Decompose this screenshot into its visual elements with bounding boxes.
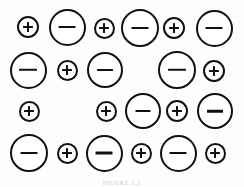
glyph-vertical-bar <box>213 66 215 76</box>
positive-ion-circle <box>57 60 78 81</box>
plus-icon <box>133 145 150 162</box>
positive-ion-circle <box>166 100 188 122</box>
plus-icon <box>21 103 38 120</box>
plus-icon <box>165 19 183 37</box>
minus-icon <box>51 11 84 44</box>
glyph-horizontal-bar <box>19 69 37 71</box>
glyph-vertical-bar <box>176 106 178 116</box>
glyph-horizontal-bar <box>132 27 149 29</box>
minus-icon <box>162 137 195 170</box>
plus-icon <box>168 102 186 120</box>
negative-ion-circle <box>49 9 86 46</box>
minus-icon <box>123 11 157 45</box>
glyph-vertical-bar <box>28 106 30 116</box>
positive-ion-circle <box>96 101 117 122</box>
minus-icon <box>88 137 121 170</box>
minus-icon <box>199 95 231 127</box>
negative-ion-circle <box>197 93 233 129</box>
negative-ion-circle <box>160 135 197 172</box>
glyph-vertical-bar <box>173 23 175 33</box>
negative-ion-circle <box>125 93 161 129</box>
glyph-vertical-bar <box>214 148 216 158</box>
plus-icon <box>98 103 115 120</box>
negative-ion-circle <box>10 52 47 89</box>
positive-ion-circle <box>94 18 115 39</box>
glyph-vertical-bar <box>27 22 29 32</box>
plus-icon <box>19 18 37 36</box>
figure-caption: FIGURE 1.1 <box>0 180 244 186</box>
plus-icon <box>59 62 76 79</box>
negative-ion-circle <box>158 51 196 89</box>
minus-icon <box>160 53 194 87</box>
negative-ion-circle <box>196 10 233 47</box>
glyph-horizontal-bar <box>21 152 38 154</box>
glyph-horizontal-bar <box>207 110 223 113</box>
plus-icon <box>59 145 76 162</box>
glyph-horizontal-bar <box>206 27 223 29</box>
plus-icon <box>207 145 224 162</box>
positive-ion-circle <box>205 143 226 164</box>
glyph-vertical-bar <box>140 148 142 158</box>
plus-icon <box>96 20 113 37</box>
glyph-horizontal-bar <box>168 69 186 71</box>
negative-ion-circle <box>86 135 123 172</box>
glyph-horizontal-bar <box>170 152 187 154</box>
positive-ion-circle <box>57 143 78 164</box>
glyph-horizontal-bar <box>96 152 113 155</box>
positive-ion-circle <box>131 143 152 164</box>
positive-ion-circle <box>203 60 225 82</box>
minus-icon <box>12 54 45 87</box>
minus-icon <box>89 54 121 86</box>
plus-icon <box>205 62 223 80</box>
glyph-vertical-bar <box>66 65 68 75</box>
glyph-horizontal-bar <box>59 26 76 28</box>
minus-icon <box>12 136 46 170</box>
glyph-vertical-bar <box>105 106 107 116</box>
glyph-vertical-bar <box>66 148 68 158</box>
minus-icon <box>198 12 231 45</box>
glyph-vertical-bar <box>103 23 105 33</box>
negative-ion-circle <box>121 9 159 47</box>
negative-ion-circle <box>87 52 123 88</box>
positive-ion-circle <box>17 16 39 38</box>
minus-icon <box>127 95 159 127</box>
positive-ion-circle <box>19 101 40 122</box>
positive-ion-circle <box>163 17 185 39</box>
negative-ion-circle <box>10 134 48 172</box>
glyph-horizontal-bar <box>136 110 151 112</box>
glyph-horizontal-bar <box>97 69 113 71</box>
ion-lattice-figure: FIGURE 1.1 <box>0 0 244 187</box>
